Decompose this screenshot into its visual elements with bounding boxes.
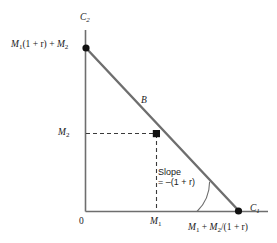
figure-canvas (0, 0, 277, 243)
endowment-y-m: M (58, 127, 66, 137)
vertical-intercept-mid: (1 + r) + (22, 39, 56, 49)
horizontal-intercept-tail: /(1 + r) (221, 222, 248, 232)
intertemporal-budget-constraint-figure: C2 M1(1 + r) + M2 B M2 Slope = –(1 + r) … (0, 0, 277, 243)
point-endowment-b (153, 130, 160, 137)
horizontal-intercept-m1: M (188, 222, 196, 232)
point-horizontal-intercept (235, 207, 242, 214)
x-axis-label: C1 (250, 203, 260, 215)
point-vertical-intercept (82, 44, 89, 51)
endowment-x-label: M1 (150, 216, 161, 228)
x-axis-label-sub: 1 (256, 207, 260, 215)
y-axis-label-sub: 2 (86, 16, 90, 24)
endowment-y-label: M2 (58, 127, 69, 139)
slope-angle-arc (197, 182, 210, 212)
slope-annotation: Slope = –(1 + r) (158, 167, 195, 188)
endowment-x-sub: 1 (158, 220, 162, 228)
origin-label: 0 (79, 216, 84, 227)
slope-annotation-line2: = –(1 + r) (158, 177, 195, 187)
horizontal-intercept-label: M1 + M2/(1 + r) (188, 222, 248, 234)
horizontal-intercept-mid: + (199, 222, 209, 232)
endowment-x-m: M (150, 216, 158, 226)
endowment-y-sub: 2 (66, 131, 70, 139)
vertical-intercept-m2: M (57, 39, 65, 49)
vertical-intercept-m2-sub: 2 (65, 43, 69, 51)
vertical-intercept-m1: M (11, 39, 19, 49)
y-axis-label: C2 (80, 12, 90, 24)
slope-annotation-line1: Slope (158, 167, 181, 177)
budget-line-label: B (141, 95, 147, 106)
vertical-intercept-label: M1(1 + r) + M2 (11, 39, 68, 51)
